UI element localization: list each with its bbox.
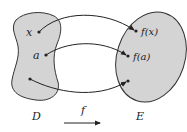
label-fa: f(a) <box>132 51 151 62</box>
point-x <box>37 30 40 33</box>
point-fx <box>134 29 137 32</box>
function-label: f <box>80 104 87 117</box>
label-x: x <box>26 26 33 39</box>
codomain-label: E <box>135 110 144 123</box>
function-mapping-diagram: x a f(x) f(a) D E f <box>0 0 187 132</box>
point-unlabeled-domain <box>28 77 31 80</box>
point-a <box>44 53 47 56</box>
point-unlabeled-codomain <box>126 79 129 82</box>
mapping-arrow-a <box>46 44 126 55</box>
point-fa <box>126 54 129 57</box>
label-fx: f(x) <box>140 26 158 37</box>
label-a: a <box>33 49 40 62</box>
domain-label: D <box>31 110 41 123</box>
